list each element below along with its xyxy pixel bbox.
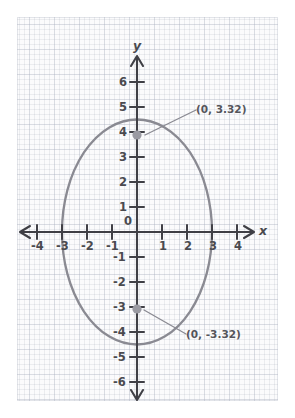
coordinate-plot xyxy=(0,0,295,418)
y-tick-label-1: 1 xyxy=(119,202,127,214)
y-tick-label--5: -5 xyxy=(113,352,126,364)
y-tick-label--6: -6 xyxy=(113,377,126,389)
y-tick-label--3: -3 xyxy=(113,302,126,314)
y-tick-label--4: -4 xyxy=(113,327,126,339)
lower-point-label: (0, -3.32) xyxy=(186,329,241,340)
x-tick-label-2: 2 xyxy=(184,241,192,253)
data-point-upper xyxy=(132,130,141,139)
origin-label: 0 xyxy=(124,216,132,228)
x-tick-label-1: 1 xyxy=(159,241,167,253)
y-tick-label-6: 6 xyxy=(119,77,127,89)
y-tick-label--1: -1 xyxy=(113,252,126,264)
y-axis-label: y xyxy=(133,40,141,53)
y-tick-label-3: 3 xyxy=(119,152,127,164)
x-tick-label--4: -4 xyxy=(31,241,44,253)
y-tick-label-4: 4 xyxy=(119,127,127,139)
figure-root: -4 -3 -2 -1 0 1 2 3 4 1 2 3 4 5 6 -1 -2 … xyxy=(0,0,295,418)
y-tick-label-2: 2 xyxy=(119,177,127,189)
lower-label-leader-line xyxy=(144,310,186,334)
y-tick-label-5: 5 xyxy=(119,102,127,114)
x-tick-label-4: 4 xyxy=(234,241,242,253)
x-axis-label: x xyxy=(259,225,267,238)
x-tick-label--3: -3 xyxy=(56,241,69,253)
data-point-lower xyxy=(132,304,141,313)
x-tick-label--2: -2 xyxy=(81,241,94,253)
y-tick-label--2: -2 xyxy=(113,277,126,289)
upper-point-label: (0, 3.32) xyxy=(196,104,246,115)
x-tick-label-3: 3 xyxy=(209,241,217,253)
